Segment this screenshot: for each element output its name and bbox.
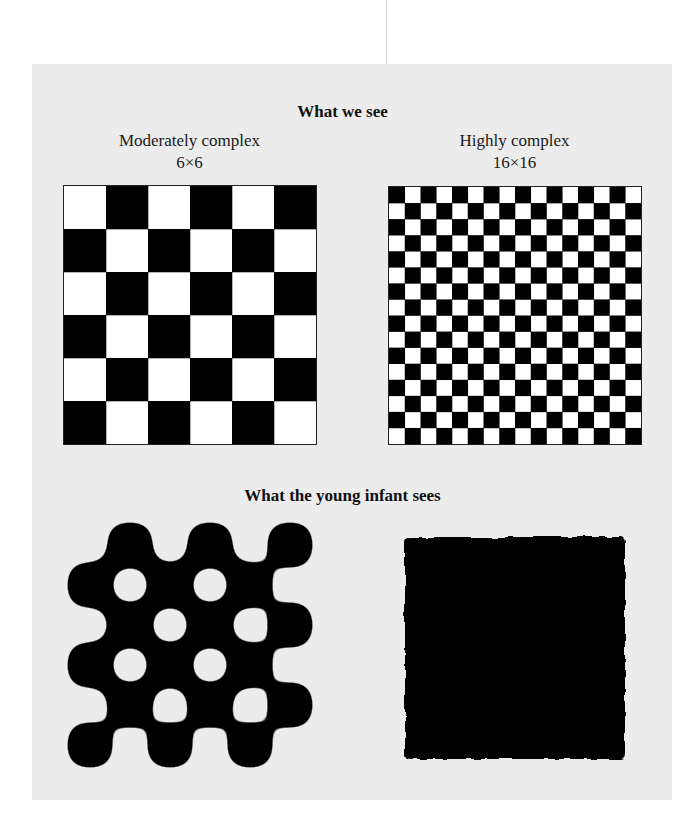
infant-view-6x6-blurred <box>50 505 340 790</box>
label-moderately-complex-size: 6×6 <box>63 152 316 174</box>
label-moderately-complex: Moderately complex 6×6 <box>63 130 316 174</box>
heading-what-we-see: What we see <box>0 102 685 122</box>
label-highly-complex: Highly complex 16×16 <box>388 130 641 174</box>
infant-view-16x16-blurred <box>400 532 630 764</box>
checkerboard-16x16 <box>388 186 642 445</box>
divider-line <box>386 0 387 64</box>
label-highly-complex-title: Highly complex <box>388 130 641 152</box>
checkerboard-6x6 <box>63 185 317 445</box>
label-moderately-complex-title: Moderately complex <box>63 130 316 152</box>
heading-infant-sees: What the young infant sees <box>0 486 685 506</box>
label-highly-complex-size: 16×16 <box>388 152 641 174</box>
